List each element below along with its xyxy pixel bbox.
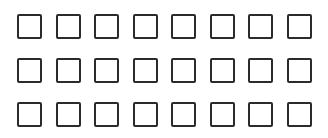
checkbox-grid — [17, 14, 315, 130]
square-box-r3-c7[interactable] — [248, 102, 273, 127]
square-box-r2-c4[interactable] — [133, 58, 158, 83]
square-box-r1-c3[interactable] — [94, 14, 119, 39]
square-box-r3-c1[interactable] — [17, 102, 42, 127]
square-box-r1-c4[interactable] — [133, 14, 158, 39]
square-box-r2-c1[interactable] — [17, 58, 42, 83]
square-box-r1-c5[interactable] — [171, 14, 196, 39]
square-box-r3-c6[interactable] — [210, 102, 235, 127]
square-box-r2-c8[interactable] — [287, 58, 312, 83]
square-box-r1-c1[interactable] — [17, 14, 42, 39]
square-box-r3-c5[interactable] — [171, 102, 196, 127]
square-box-r2-c2[interactable] — [56, 58, 81, 83]
square-box-r2-c6[interactable] — [210, 58, 235, 83]
square-box-r2-c3[interactable] — [94, 58, 119, 83]
square-box-r2-c5[interactable] — [171, 58, 196, 83]
square-box-r2-c7[interactable] — [248, 58, 273, 83]
square-box-r3-c4[interactable] — [133, 102, 158, 127]
square-box-r3-c2[interactable] — [56, 102, 81, 127]
square-box-r1-c7[interactable] — [248, 14, 273, 39]
square-box-r1-c2[interactable] — [56, 14, 81, 39]
square-box-r1-c6[interactable] — [210, 14, 235, 39]
square-box-r1-c8[interactable] — [287, 14, 312, 39]
square-box-r3-c8[interactable] — [287, 102, 312, 127]
square-box-r3-c3[interactable] — [94, 102, 119, 127]
